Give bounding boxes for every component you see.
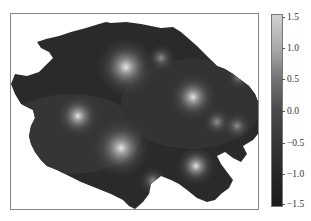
heatmap-map	[11, 14, 259, 210]
colorbar-tick: 1.5	[284, 12, 299, 22]
colorbar-tick: 0.5	[284, 74, 299, 84]
colorbar-tick: −1.0	[284, 169, 304, 179]
colorbar-tick: −0.5	[284, 138, 304, 148]
colorbar-tick: −1.5	[284, 199, 304, 209]
map-plot-area	[10, 13, 259, 210]
colorbar-tick: 0.0	[284, 106, 299, 116]
colorbar-tick: 1.0	[284, 43, 299, 53]
